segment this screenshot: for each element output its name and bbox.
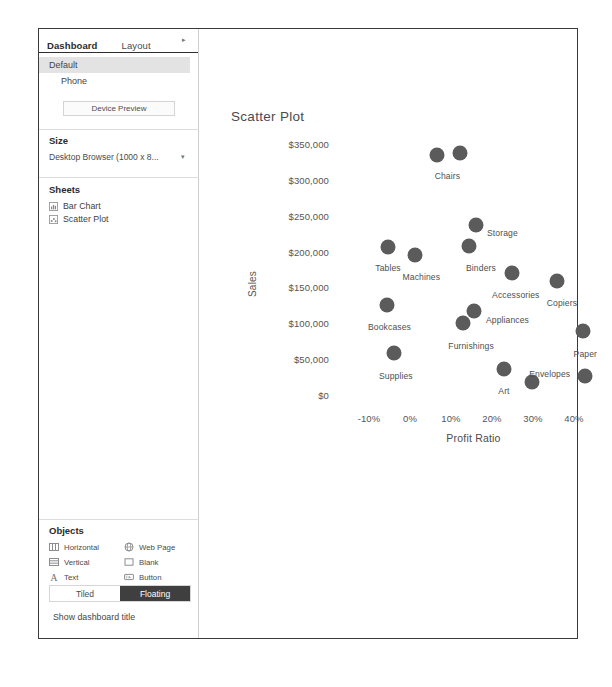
scatter-plot[interactable]: $0$50,000$100,000$150,000$200,000$250,00… (199, 29, 577, 638)
scatter-point[interactable] (575, 324, 590, 339)
device-item-default[interactable]: Default (39, 57, 190, 73)
scatter-point[interactable] (429, 147, 444, 162)
bar-chart-icon (49, 202, 58, 211)
y-axis-tick: $50,000 (255, 354, 329, 365)
size-section-title: Size (49, 135, 189, 146)
tiled-floating-toggle: Tiled Floating (49, 585, 191, 602)
tiled-button[interactable]: Tiled (50, 586, 120, 601)
chevron-down-icon: ▾ (181, 153, 189, 161)
object-item-blank[interactable]: Blank (124, 557, 199, 567)
scatter-point[interactable] (549, 273, 564, 288)
object-item-text[interactable]: A Text (49, 572, 124, 582)
web-page-icon (124, 542, 134, 552)
screenshot-root: Dashboard Layout ▸ Default Phone Device … (0, 0, 612, 687)
divider-above-objects (39, 519, 199, 520)
sheets-section-title: Sheets (49, 184, 108, 195)
y-axis-label: Sales (247, 271, 258, 297)
object-label: Web Page (139, 543, 175, 552)
device-item-phone[interactable]: Phone (39, 73, 198, 89)
button-icon (124, 572, 134, 582)
scatter-point[interactable] (497, 362, 512, 377)
device-preview-button[interactable]: Device Preview (63, 101, 175, 116)
object-label: Vertical (64, 558, 90, 567)
sheet-label: Bar Chart (63, 201, 101, 211)
object-item-web-page[interactable]: Web Page (124, 542, 199, 552)
scatter-point-label: Binders (466, 263, 496, 273)
scatter-point-label: Bookcases (368, 322, 411, 332)
x-axis-tick: -10% (358, 413, 381, 424)
object-label: Button (139, 573, 162, 582)
blank-icon (124, 557, 134, 567)
scatter-point-label: Copiers (547, 298, 577, 308)
scatter-point[interactable] (456, 316, 471, 331)
device-preview-list: Default Phone (39, 57, 198, 89)
x-axis-tick: 40% (564, 413, 583, 424)
text-icon: A (49, 572, 59, 582)
y-axis-tick: $300,000 (255, 174, 329, 185)
scatter-point-label: Appliances (486, 315, 529, 325)
object-item-vertical[interactable]: Vertical (49, 557, 124, 567)
object-label: Text (64, 573, 78, 582)
size-dropdown-value: Desktop Browser (1000 x 8... (49, 152, 159, 162)
dashboard-panel: Dashboard Layout ▸ Default Phone Device … (38, 28, 578, 639)
scatter-point[interactable] (381, 240, 396, 255)
scatter-point[interactable] (452, 146, 467, 161)
scatter-point[interactable] (380, 297, 395, 312)
scatter-plot-icon (49, 215, 58, 224)
sidebar-tabs-divider (39, 52, 198, 53)
scatter-point[interactable] (578, 368, 593, 383)
horizontal-container-icon (49, 542, 59, 552)
object-item-button[interactable]: Button (124, 572, 199, 582)
object-label: Blank (139, 558, 159, 567)
sheet-label: Scatter Plot (63, 214, 108, 224)
y-axis-tick: $0 (255, 390, 329, 401)
scatter-point[interactable] (469, 218, 484, 233)
scatter-point-label: Supplies (379, 371, 413, 381)
scatter-point-label: Accessories (492, 290, 539, 300)
sheet-item-scatter-plot[interactable]: Scatter Plot (49, 214, 108, 224)
objects-section-title: Objects (49, 525, 199, 536)
scatter-point-label: Chairs (435, 171, 460, 181)
vertical-container-icon (49, 557, 59, 567)
y-axis-tick: $200,000 (255, 246, 329, 257)
sheet-item-bar-chart[interactable]: Bar Chart (49, 201, 108, 211)
show-dashboard-title-checkbox[interactable]: Show dashboard title (53, 612, 135, 622)
scatter-point-label: Paper (574, 349, 597, 359)
object-label: Horizontal (64, 543, 99, 552)
scatter-point[interactable] (466, 304, 481, 319)
x-axis-tick: 0% (403, 413, 417, 424)
y-axis-tick: $100,000 (255, 318, 329, 329)
scatter-point[interactable] (505, 266, 520, 281)
x-axis-tick: 10% (441, 413, 460, 424)
y-axis-tick: $350,000 (255, 139, 329, 150)
scatter-point-label: Envelopes (529, 369, 570, 379)
dashboard-canvas: Scatter Plot $0$50,000$100,000$150,000$2… (199, 29, 577, 638)
svg-text:A: A (51, 573, 58, 582)
scatter-point-label: Storage (487, 228, 518, 238)
x-axis-tick: 20% (482, 413, 501, 424)
tab-overflow-caret-icon[interactable]: ▸ (182, 36, 186, 44)
y-axis-tick: $150,000 (255, 282, 329, 293)
divider-above-sheets (39, 177, 199, 178)
x-axis-label: Profit Ratio (446, 432, 500, 444)
scatter-point[interactable] (407, 248, 422, 263)
scatter-point-label: Furnishings (448, 341, 494, 351)
scatter-point-label: Art (498, 386, 509, 396)
object-item-horizontal[interactable]: Horizontal (49, 542, 124, 552)
x-axis-tick: 30% (523, 413, 542, 424)
scatter-point-label: Tables (375, 263, 400, 273)
size-section: Size Desktop Browser (1000 x 8... ▾ (49, 135, 189, 162)
scatter-point-label: Machines (403, 272, 441, 282)
tab-layout[interactable]: Layout (104, 40, 157, 51)
y-axis-tick: $250,000 (255, 210, 329, 221)
sheets-section: Sheets Bar Chart (49, 184, 108, 227)
scatter-point[interactable] (387, 346, 402, 361)
size-dropdown[interactable]: Desktop Browser (1000 x 8... ▾ (49, 152, 189, 162)
divider-above-size (39, 129, 199, 130)
tab-dashboard[interactable]: Dashboard (47, 40, 104, 51)
scatter-point[interactable] (462, 238, 477, 253)
dashboard-sidebar: Dashboard Layout ▸ Default Phone Device … (39, 29, 199, 638)
floating-button[interactable]: Floating (120, 586, 190, 601)
